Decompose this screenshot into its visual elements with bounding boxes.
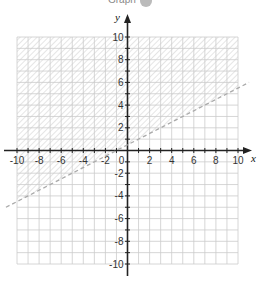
x-tick-label: -2 xyxy=(101,155,110,166)
x-tick-label: -10 xyxy=(10,155,25,166)
x-tick-label: 2 xyxy=(147,155,153,166)
y-axis-label: y xyxy=(114,11,120,23)
y-tick-label: 4 xyxy=(118,100,124,111)
y-tick-label: -10 xyxy=(109,259,124,270)
y-tick-label: -2 xyxy=(115,168,124,179)
y-tick-label: -4 xyxy=(115,190,124,201)
x-tick-label: -4 xyxy=(79,155,88,166)
coordinate-plane: -10-8-6-4-20246810-10-8-6-4-2246810 x y xyxy=(0,0,261,281)
x-tick-label: 6 xyxy=(191,155,197,166)
y-tick-label: -6 xyxy=(115,213,124,224)
x-tick-label: -8 xyxy=(35,155,44,166)
x-tick-label: 4 xyxy=(169,155,175,166)
y-tick-label: 10 xyxy=(112,32,124,43)
x-tick-label: -6 xyxy=(57,155,66,166)
x-tick-label: 10 xyxy=(232,155,244,166)
y-tick-label: 6 xyxy=(118,77,124,88)
x-tick-label: 8 xyxy=(213,155,219,166)
y-tick-label: 8 xyxy=(118,54,124,65)
y-tick-label: 2 xyxy=(118,122,124,133)
x-tick-label: 0 xyxy=(119,155,125,166)
y-tick-label: -8 xyxy=(115,236,124,247)
x-axis-label: x xyxy=(250,152,256,164)
